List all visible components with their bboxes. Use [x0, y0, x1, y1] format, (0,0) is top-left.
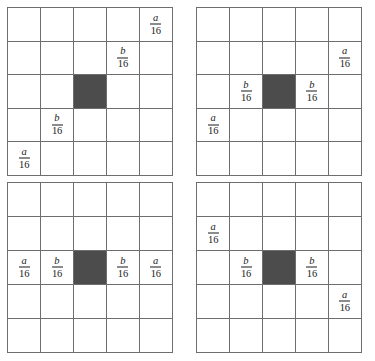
fraction-denominator: 16 — [118, 268, 128, 279]
fraction-a-over-16: a16 — [19, 255, 30, 279]
empty-cell — [74, 319, 106, 352]
empty-cell — [197, 42, 229, 74]
fraction-b-over-16: b16 — [306, 79, 317, 103]
empty-cell — [74, 142, 106, 174]
grid-bottom-left: a16b16b16a16 — [7, 182, 173, 353]
empty-cell — [263, 319, 295, 352]
fraction-denominator: 16 — [307, 92, 317, 103]
fraction-numerator: b — [308, 79, 315, 90]
empty-cell — [140, 217, 172, 250]
empty-cell — [263, 42, 295, 74]
grid-top-right: a16b16b16a16 — [196, 7, 362, 176]
fraction-numerator: a — [20, 146, 27, 157]
fraction-numerator: a — [341, 289, 348, 300]
fraction-denominator: 16 — [52, 268, 62, 279]
empty-cell — [263, 8, 295, 40]
fraction-cell: a16 — [140, 8, 172, 40]
empty-cell — [296, 319, 328, 352]
empty-cell — [140, 142, 172, 174]
shaded-cell — [263, 251, 295, 284]
fraction-numerator: b — [53, 255, 60, 266]
empty-cell — [296, 8, 328, 40]
fraction-cell: a16 — [329, 42, 361, 74]
fraction-numerator: b — [242, 79, 249, 90]
empty-cell — [230, 109, 262, 141]
fraction-numerator: b — [53, 113, 60, 124]
fraction-denominator: 16 — [241, 92, 251, 103]
empty-cell — [140, 42, 172, 74]
empty-cell — [296, 183, 328, 216]
empty-cell — [230, 8, 262, 40]
empty-cell — [197, 142, 229, 174]
fraction-a-over-16: a16 — [208, 221, 219, 245]
fraction-cell: a16 — [8, 142, 40, 174]
empty-cell — [8, 75, 40, 107]
fraction-cell: a16 — [140, 251, 172, 284]
shaded-cell — [74, 251, 106, 284]
fraction-cell: a16 — [197, 217, 229, 250]
empty-cell — [74, 8, 106, 40]
empty-cell — [41, 285, 73, 318]
fraction-numerator: a — [152, 255, 159, 266]
empty-cell — [41, 8, 73, 40]
empty-cell — [263, 109, 295, 141]
fraction-denominator: 16 — [340, 59, 350, 70]
empty-cell — [140, 319, 172, 352]
empty-cell — [263, 285, 295, 318]
empty-cell — [197, 183, 229, 216]
fraction-b-over-16: b16 — [117, 255, 128, 279]
empty-cell — [296, 142, 328, 174]
empty-cell — [230, 217, 262, 250]
fraction-denominator: 16 — [151, 25, 161, 36]
empty-cell — [8, 217, 40, 250]
fraction-numerator: a — [209, 113, 216, 124]
empty-cell — [296, 217, 328, 250]
fraction-numerator: a — [209, 221, 216, 232]
empty-cell — [197, 251, 229, 284]
empty-cell — [329, 109, 361, 141]
fraction-b-over-16: b16 — [241, 255, 252, 279]
empty-cell — [107, 319, 139, 352]
fraction-numerator: b — [242, 255, 249, 266]
empty-cell — [329, 319, 361, 352]
fraction-denominator: 16 — [307, 268, 317, 279]
fraction-b-over-16: b16 — [117, 46, 128, 70]
fraction-b-over-16: b16 — [306, 255, 317, 279]
empty-cell — [74, 183, 106, 216]
empty-cell — [263, 183, 295, 216]
empty-cell — [8, 109, 40, 141]
fraction-cell: b16 — [107, 42, 139, 74]
empty-cell — [296, 285, 328, 318]
fraction-denominator: 16 — [118, 59, 128, 70]
fraction-denominator: 16 — [52, 126, 62, 137]
empty-cell — [329, 75, 361, 107]
empty-cell — [107, 75, 139, 107]
empty-cell — [107, 142, 139, 174]
fraction-cell: b16 — [107, 251, 139, 284]
empty-cell — [296, 109, 328, 141]
shaded-cell — [263, 75, 295, 107]
fraction-numerator: a — [20, 255, 27, 266]
fraction-cell: a16 — [8, 251, 40, 284]
fraction-numerator: b — [308, 255, 315, 266]
empty-cell — [107, 183, 139, 216]
empty-cell — [107, 285, 139, 318]
empty-cell — [41, 142, 73, 174]
fraction-denominator: 16 — [19, 268, 29, 279]
empty-cell — [230, 183, 262, 216]
empty-cell — [41, 42, 73, 74]
empty-cell — [329, 142, 361, 174]
fraction-cell: a16 — [329, 285, 361, 318]
empty-cell — [107, 217, 139, 250]
empty-cell — [230, 319, 262, 352]
grid-top-left: a16b16b16a16 — [7, 7, 173, 176]
empty-cell — [74, 285, 106, 318]
empty-cell — [41, 217, 73, 250]
fraction-denominator: 16 — [208, 126, 218, 137]
empty-cell — [197, 285, 229, 318]
empty-cell — [107, 8, 139, 40]
fraction-cell: b16 — [41, 109, 73, 141]
empty-cell — [197, 75, 229, 107]
fraction-a-over-16: a16 — [19, 146, 30, 170]
empty-cell — [230, 285, 262, 318]
